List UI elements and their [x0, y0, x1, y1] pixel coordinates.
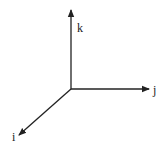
- i-axis: i: [12, 89, 71, 144]
- axes-diagram: k j i: [0, 0, 165, 150]
- i-axis-label: i: [12, 130, 16, 144]
- j-axis: j: [71, 83, 156, 97]
- j-axis-label: j: [152, 83, 156, 97]
- k-axis: k: [71, 10, 83, 89]
- i-axis-line: [19, 89, 71, 135]
- k-axis-label: k: [77, 21, 83, 35]
